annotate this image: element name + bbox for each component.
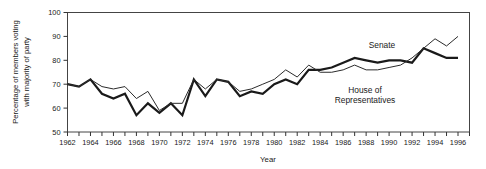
y-axis-title-line1: Percentage of members voting (11, 20, 20, 123)
y-tick-label: 90 (52, 32, 60, 41)
x-tick-label: 1968 (128, 138, 144, 147)
y-tick-label: 70 (52, 80, 60, 89)
line-chart: 5060708090100 19621964196619681970197219… (0, 0, 486, 169)
y-tick-label: 80 (52, 56, 60, 65)
plot-frame (68, 13, 470, 133)
series-label-house-line1: House of (348, 85, 382, 95)
y-axis-ticks (64, 13, 68, 133)
x-axis-title: Year (260, 155, 276, 164)
x-axis-tick-labels: 1962196419661968197019721974197619781980… (59, 138, 466, 147)
y-tick-label: 100 (48, 8, 60, 17)
x-tick-label: 1984 (312, 138, 328, 147)
x-tick-label: 1976 (220, 138, 236, 147)
x-axis-ticks (68, 132, 470, 136)
y-axis-title-line2: with majority of party (22, 37, 31, 108)
x-tick-label: 1972 (174, 138, 190, 147)
x-tick-label: 1980 (266, 138, 282, 147)
x-tick-label: 1970 (151, 138, 167, 147)
plot-area-border (68, 13, 470, 133)
x-tick-label: 1990 (381, 138, 397, 147)
x-tick-label: 1982 (289, 138, 305, 147)
series-label-senate: Senate (369, 40, 396, 50)
x-tick-label: 1988 (358, 138, 374, 147)
y-tick-label: 50 (52, 128, 60, 137)
y-axis-title: Percentage of members voting with majori… (11, 20, 31, 123)
x-tick-label: 1978 (243, 138, 259, 147)
x-tick-label: 1992 (404, 138, 420, 147)
x-tick-label: 1986 (335, 138, 351, 147)
x-tick-label: 1966 (105, 138, 121, 147)
y-tick-label: 60 (52, 104, 60, 113)
x-tick-label: 1962 (59, 138, 75, 147)
x-tick-label: 1964 (82, 138, 98, 147)
series-label-house-line2: Representatives (335, 95, 396, 105)
x-tick-label: 1974 (197, 138, 213, 147)
chart-figure: 5060708090100 19621964196619681970197219… (0, 0, 486, 169)
x-tick-label: 1994 (427, 138, 443, 147)
y-axis-tick-labels: 5060708090100 (48, 8, 60, 137)
x-tick-label: 1996 (450, 138, 466, 147)
